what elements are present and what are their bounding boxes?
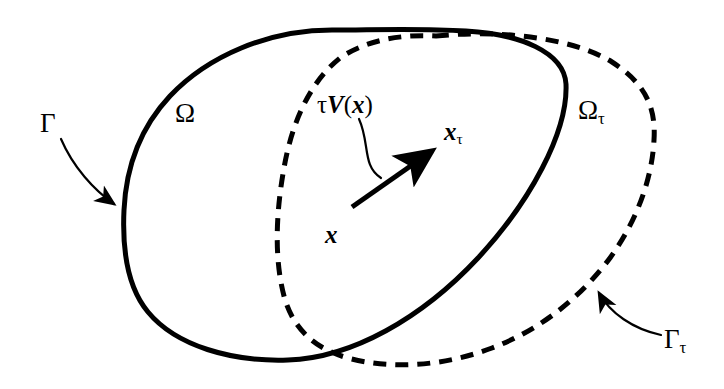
label-omega: Ω [175, 100, 195, 127]
label-point-x-tau-base: x [444, 118, 457, 145]
label-omega-tau-base: Ω [578, 95, 598, 125]
perturbed-domain-boundary-gamma-tau [277, 34, 654, 365]
label-omega-tau: Ωτ [578, 97, 605, 127]
label-point-x-tau-subscript: τ [457, 130, 463, 147]
label-gamma-tau-base: Γ [664, 324, 680, 354]
label-gamma-tau-subscript: τ [680, 338, 687, 357]
reference-domain-boundary-gamma [124, 29, 566, 360]
gamma-leader-arrow [61, 139, 114, 204]
tau-v-leader-line [359, 119, 381, 178]
label-tau-symbol: τ [317, 91, 327, 118]
label-gamma: Γ [40, 110, 56, 137]
gamma-tau-leader-arrow [599, 293, 661, 335]
displacement-vector-arrow [352, 151, 432, 207]
label-omega-tau-subscript: τ [598, 109, 605, 128]
label-tau-velocity-field: τV(x) [317, 92, 373, 117]
diagram-vector-graphics [0, 0, 724, 389]
label-point-x: x [325, 222, 338, 247]
label-open-paren: ( [344, 91, 352, 118]
label-point-x-tau: xτ [444, 119, 463, 147]
figure-canvas: Ω Ωτ Γ Γτ τV(x) x xτ [0, 0, 724, 389]
label-velocity-field-v: V [327, 91, 344, 118]
label-close-paren: ) [365, 91, 373, 118]
label-velocity-field-argument: x [352, 91, 365, 118]
label-gamma-tau: Γτ [664, 326, 686, 356]
